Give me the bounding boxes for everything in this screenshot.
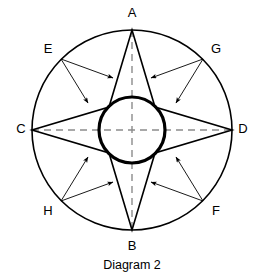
arrow-from-e [61, 59, 88, 103]
vertex-label-b: B [128, 238, 137, 253]
vertex-label-h: H [43, 203, 52, 218]
vertex-label-e: E [44, 41, 53, 56]
vertex-label-c: C [16, 121, 25, 136]
arrow-from-f [151, 182, 203, 201]
vertex-label-d: D [238, 121, 247, 136]
arrow-from-e [61, 59, 113, 78]
arrow-from-g [176, 59, 203, 103]
arrow-from-h [61, 182, 113, 201]
vertex-label-g: G [211, 41, 221, 56]
diagram-caption: Diagram 2 [103, 258, 161, 272]
arrow-from-f [176, 157, 203, 201]
vertex-label-a: A [128, 5, 137, 20]
diagram-canvas: AEGCDHFB Diagram 2 [0, 0, 260, 274]
vertex-label-f: F [212, 203, 220, 218]
arrow-from-h [61, 157, 88, 201]
arrow-from-g [151, 59, 203, 78]
diagram-figure: AEGCDHFB Diagram 2 [0, 0, 260, 274]
